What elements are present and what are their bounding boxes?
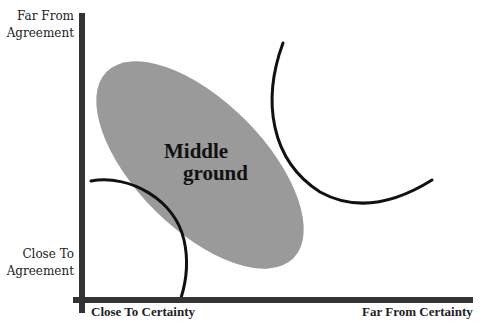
x-axis-left-label: Close To Certainty: [91, 304, 195, 320]
y-axis-top-label-line-1: Far From: [7, 8, 74, 25]
y-axis: [79, 13, 85, 313]
y-axis-bottom-label-line-1: Close To: [7, 246, 74, 263]
diagram-canvas: Far From Agreement Close To Agreement Cl…: [0, 0, 486, 329]
middle-ground-label-line-1: Middle: [164, 140, 228, 162]
y-axis-top-label-line-2: Agreement: [7, 25, 74, 42]
y-axis-bottom-label: Close To Agreement: [7, 246, 74, 280]
upper-right-boundary-curve: [272, 43, 432, 203]
y-axis-top-label: Far From Agreement: [7, 8, 74, 42]
middle-ground-label-line-2: ground: [183, 162, 248, 184]
y-axis-bottom-label-line-2: Agreement: [7, 263, 74, 280]
x-axis: [73, 297, 473, 303]
x-axis-right-label: Far From Certainty: [362, 304, 473, 320]
